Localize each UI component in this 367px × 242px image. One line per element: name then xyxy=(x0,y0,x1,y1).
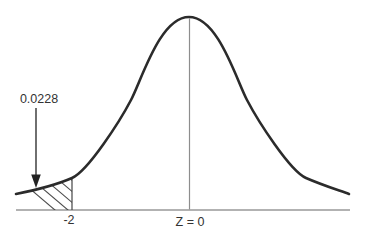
x-tick-z0: Z = 0 xyxy=(176,215,205,229)
normal-curve xyxy=(16,17,349,194)
hatch-line xyxy=(41,165,101,216)
shaded-tail-region xyxy=(2,165,114,216)
hatch-line xyxy=(15,165,75,216)
normal-curve-figure: 0.0228 -2 Z = 0 xyxy=(0,0,367,242)
x-tick-neg2: -2 xyxy=(63,213,74,227)
tail-area-label: 0.0228 xyxy=(20,92,58,106)
down-arrow-icon xyxy=(31,108,41,188)
normal-curve-canvas: 0.0228 -2 Z = 0 xyxy=(0,0,367,242)
hatch-line xyxy=(54,165,114,216)
